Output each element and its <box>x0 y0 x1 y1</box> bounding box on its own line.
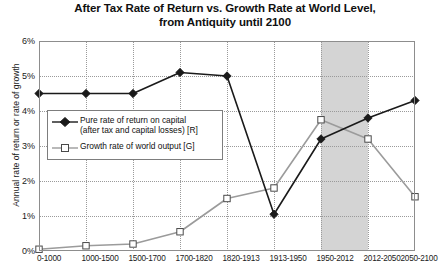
legend-label-growth-rate: Growth rate of world output [G] <box>80 142 222 152</box>
y-tick-label-5: 5% <box>3 71 35 81</box>
legend-marker-open-square-icon <box>52 143 78 153</box>
y-tick-label-6: 6% <box>3 36 35 46</box>
y-tick-label-3: 3% <box>3 141 35 151</box>
y-tick-label-4: 4% <box>3 106 35 116</box>
data-point-R-0-1000 <box>35 89 43 97</box>
data-point-G-1950-2012 <box>318 117 324 123</box>
data-point-G-1820-1913 <box>224 195 230 201</box>
data-point-R-1820-1913 <box>223 72 231 80</box>
legend-label-line-1: Pure rate of return on capital <box>80 115 186 125</box>
data-point-G-0-1000 <box>36 246 42 252</box>
data-point-R-1700-1820 <box>176 68 184 76</box>
legend-label-return-on-capital: Pure rate of return on capital (after ta… <box>80 116 222 136</box>
chart-title-line-1: After Tax Rate of Return vs. Growth Rate… <box>74 2 375 14</box>
data-point-G-1500-1700 <box>130 241 136 247</box>
data-point-G-1000-1500 <box>83 243 89 249</box>
data-point-G-2012-2050 <box>365 136 371 142</box>
chart-title: After Tax Rate of Return vs. Growth Rate… <box>30 2 420 29</box>
data-point-R-1950-2012 <box>317 135 325 143</box>
y-tick-label-1: 1% <box>3 211 35 221</box>
data-point-G-2050-2100 <box>412 194 418 200</box>
legend-label-line-1: Growth rate of world output [G] <box>80 141 195 151</box>
data-point-G-1700-1820 <box>177 229 183 235</box>
data-point-R-1913-1950 <box>270 210 278 218</box>
y-tick-label-2: 2% <box>3 176 35 186</box>
x-tick-label-8: 2050-2100 <box>388 254 443 263</box>
data-point-G-1913-1950 <box>271 185 277 191</box>
chart-title-line-2: from Antiquity until 2100 <box>30 16 420 30</box>
legend-label-line-2: (after tax and capital losses) [R] <box>80 126 222 136</box>
data-point-R-2050-2100 <box>411 96 419 104</box>
data-point-R-1000-1500 <box>82 89 90 97</box>
y-axis-title: Annual rate of return or rate of growth <box>11 35 21 235</box>
chart-legend: Pure rate of return on capital (after ta… <box>47 110 223 160</box>
data-point-R-2012-2050 <box>364 114 372 122</box>
data-point-R-1500-1700 <box>129 89 137 97</box>
legend-marker-filled-diamond-icon <box>52 117 78 127</box>
